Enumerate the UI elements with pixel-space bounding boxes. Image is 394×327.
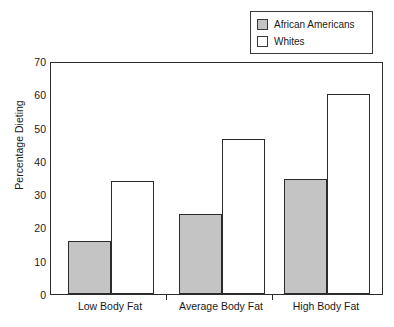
x-tick-mark xyxy=(166,295,167,300)
x-tick-mark xyxy=(272,295,273,300)
y-tick-label: 40 xyxy=(34,156,46,168)
bar-low-african-americans xyxy=(68,241,111,294)
chart-legend: African Americans Whites xyxy=(250,11,373,54)
y-tick-label: 10 xyxy=(34,256,46,268)
bar-chart: African Americans Whites Percentage Diet… xyxy=(0,0,394,327)
plot-frame xyxy=(50,62,383,295)
y-tick-label: 50 xyxy=(34,123,46,135)
x-tick-label-high-body-fat: High Body Fat xyxy=(293,300,360,312)
y-tick-label: 70 xyxy=(34,56,46,68)
legend-swatch-icon-series-a xyxy=(257,19,268,30)
legend-entry-african-americans: African Americans xyxy=(257,16,372,33)
bar-high-african-americans xyxy=(284,179,327,294)
bar-average-african-americans xyxy=(179,214,222,294)
legend-label-series-a: African Americans xyxy=(274,19,355,30)
y-axis-tick-labels: 70 60 50 40 30 20 10 0 xyxy=(22,62,46,295)
plot-area xyxy=(51,63,382,294)
legend-swatch-icon-series-b xyxy=(257,36,268,47)
y-tick-label: 20 xyxy=(34,222,46,234)
legend-entry-whites: Whites xyxy=(257,33,372,50)
bar-average-whites xyxy=(222,139,265,294)
bar-low-whites xyxy=(111,181,154,294)
x-tick-label-average-body-fat: Average Body Fat xyxy=(179,300,263,312)
legend-label-series-b: Whites xyxy=(274,36,305,47)
y-tick-label: 60 xyxy=(34,89,46,101)
x-tick-label-low-body-fat: Low Body Fat xyxy=(78,300,142,312)
y-tick-label: 30 xyxy=(34,189,46,201)
bar-high-whites xyxy=(327,94,370,294)
y-tick-label: 0 xyxy=(40,289,46,301)
